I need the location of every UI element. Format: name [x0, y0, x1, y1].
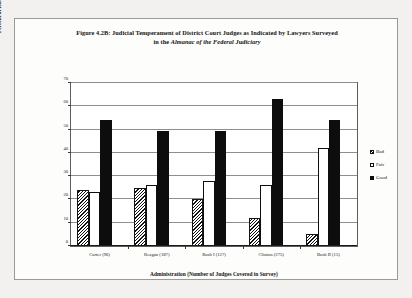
figure-title: Figure 4.2B: Judicial Temperament of Dis… [45, 29, 369, 47]
bar-good [329, 120, 340, 246]
bar-group [128, 83, 185, 246]
bar-good [100, 120, 111, 246]
x-tick-mark [185, 246, 186, 249]
y-tick-label: 70 [63, 76, 68, 81]
plot-area: 010203040506070 Carter (96)Reagan (187)B… [70, 82, 358, 247]
y-tick-label: 30 [63, 169, 68, 174]
figure-title-publication: Almanac of the Federal Judiciary [171, 38, 261, 45]
x-tick-label: Carter (96) [89, 252, 110, 257]
scanned-page-background: Figure 4.2B: Judicial Temperament of Dis… [0, 0, 412, 298]
x-tick-mark [243, 246, 244, 249]
x-tick-label: Reagan (187) [144, 252, 169, 257]
x-tick-mark [128, 246, 129, 249]
x-axis-title: Administration (Number of Judges Covered… [70, 271, 358, 277]
legend-swatch-bad [370, 150, 374, 154]
bar-group [300, 83, 357, 246]
legend-swatch-fair [370, 163, 374, 167]
legend: BadFairGood [370, 145, 412, 184]
bar-bad [134, 188, 145, 246]
bar-fair [260, 185, 271, 246]
bar-groups [71, 83, 357, 246]
bar-group [243, 83, 300, 246]
figure-frame: Figure 4.2B: Judicial Temperament of Dis… [14, 18, 398, 280]
x-tick-label: Bush II (15) [317, 252, 340, 257]
bar-fair [146, 185, 157, 246]
bar-good [215, 131, 226, 246]
bar-good [157, 131, 168, 246]
y-tick-label: 60 [63, 99, 68, 104]
bar-group [71, 83, 128, 246]
legend-item-bad: Bad [370, 145, 412, 158]
bar-fair [318, 148, 329, 246]
figure-title-line-1: Figure 4.2B: Judicial Temperament of Dis… [76, 29, 338, 36]
x-tick-label: Clinton (275) [258, 252, 283, 257]
bar-fair [89, 192, 100, 246]
legend-label: Good [376, 175, 387, 180]
legend-label: Fair [376, 162, 384, 167]
y-tick-label: 20 [63, 192, 68, 197]
bar-good [272, 99, 283, 246]
x-tick-label: Bush I (127) [202, 252, 226, 257]
y-tick-label: 50 [63, 122, 68, 127]
legend-item-good: Good [370, 171, 412, 184]
bar-fair [203, 181, 214, 246]
x-tick-mark [300, 246, 301, 249]
figure-title-line-2-prefix: in the [153, 38, 170, 45]
legend-label: Bad [376, 149, 384, 154]
y-tick-label: 40 [63, 145, 68, 150]
y-axis-title: Percent of Lawyers Surveyed Who Rated No… [0, 0, 2, 33]
y-tick-label: 10 [63, 215, 68, 220]
legend-item-fair: Fair [370, 158, 412, 171]
bar-group [185, 83, 242, 246]
y-tick-label: 0 [66, 239, 68, 244]
bar-bad [249, 218, 260, 246]
x-axis-baseline [71, 245, 357, 246]
legend-swatch-good [370, 176, 374, 180]
bar-bad [77, 190, 88, 246]
bar-bad [192, 199, 203, 246]
